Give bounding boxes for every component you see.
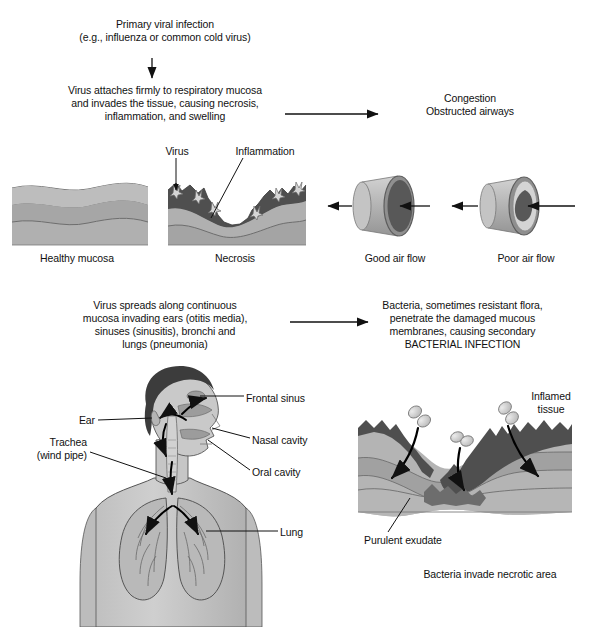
nasal-cavity-leader-line — [212, 428, 250, 438]
good-air-flow-illustration — [328, 176, 430, 236]
purulent-exudate-leader-line — [388, 498, 410, 532]
caption-good-air-flow: Good air flow — [335, 252, 455, 265]
bacteria-invade-arrow-left-icon — [392, 428, 418, 478]
bacteria-invade-arrow-mid-icon — [458, 448, 464, 490]
flow-step-virus-attaches: Virus attaches firmly to respiratory muc… — [20, 84, 310, 123]
caption-necrosis: Necrosis — [175, 252, 295, 265]
arrow-to-ear-icon — [160, 414, 186, 420]
trachea-leader-line — [90, 452, 166, 478]
flow-step-virus-spreads: Virus spreads along continuous mucosa in… — [50, 299, 280, 351]
arrow-down-trachea-icon — [171, 462, 173, 494]
label-purulent-exudate: Purulent exudate — [364, 534, 494, 547]
flow-result-congestion: Congestion Obstructed airways — [390, 92, 550, 118]
arrow-left-bronchus-icon — [146, 506, 172, 534]
label-lung: Lung — [280, 526, 340, 539]
arrow-down-pharynx-icon — [163, 424, 166, 456]
label-inflammation: Inflammation — [215, 145, 315, 158]
bacteria-diplococcus-icon — [406, 399, 521, 448]
label-ear: Ear — [50, 414, 95, 427]
inflammation-leader-line — [211, 158, 243, 218]
human-respiratory-figure — [80, 366, 278, 627]
virus-particle-icon — [170, 182, 305, 220]
flow-result-bacterial-infection: Bacteria, sometimes resistant flora, pen… — [350, 299, 575, 351]
label-frontal-sinus: Frontal sinus — [246, 392, 356, 405]
label-nasal-cavity: Nasal cavity — [252, 434, 362, 447]
arrow-right-bronchus-icon — [174, 506, 198, 534]
caption-poor-air-flow: Poor air flow — [466, 252, 586, 265]
ear-leader-line — [98, 418, 152, 420]
caption-bacteria-invade: Bacteria invade necrotic area — [400, 568, 580, 581]
necrosis-mucosa-illustration — [168, 158, 306, 245]
arrow-to-sinus-icon — [182, 398, 206, 414]
oral-cavity-leader-line — [208, 440, 250, 470]
bronchial-tree — [136, 506, 208, 586]
flow-step-primary-infection: Primary viral infection (e.g., influenza… — [30, 18, 300, 44]
ear-shape — [151, 411, 160, 426]
caption-healthy-mucosa: Healthy mucosa — [12, 252, 142, 265]
healthy-mucosa-illustration — [12, 183, 148, 245]
bacteria-invasion-illustration — [358, 399, 572, 532]
bacteria-invade-arrow-right-icon — [508, 426, 538, 476]
label-virus: Virus — [152, 145, 202, 158]
label-oral-cavity: Oral cavity — [252, 466, 362, 479]
poor-air-flow-illustration — [452, 177, 575, 235]
label-trachea: Trachea (wind pipe) — [2, 436, 87, 462]
label-inflamed-tissue: Inflamed tissue — [518, 390, 584, 416]
diagram-canvas: Primary viral infection (e.g., influenza… — [0, 0, 593, 627]
